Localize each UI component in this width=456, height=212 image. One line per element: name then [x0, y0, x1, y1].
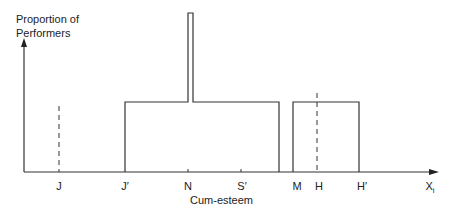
tick-label-j: J	[56, 180, 62, 192]
x-axis-end-subscript: i	[433, 186, 435, 195]
x-axis-arrow-icon	[429, 169, 439, 175]
y-axis-label-line2: Performers	[16, 26, 79, 40]
y-axis-label-line1: Proportion of	[16, 12, 79, 26]
x-axis-end-label: Xi	[425, 180, 434, 195]
x-axis-title: Cum-esteem	[190, 194, 253, 206]
tick-label-m: M	[292, 180, 301, 192]
tick-label-s-prime: S′	[237, 180, 246, 192]
y-axis-label: Proportion of Performers	[16, 12, 79, 40]
tick-label-h: H	[315, 180, 323, 192]
main-block-with-spike	[125, 13, 279, 172]
tick-label-h-prime: H′	[357, 180, 367, 192]
tick-label-n: N	[184, 180, 192, 192]
right-block	[293, 102, 359, 172]
tick-label-j-prime: J′	[121, 180, 129, 192]
